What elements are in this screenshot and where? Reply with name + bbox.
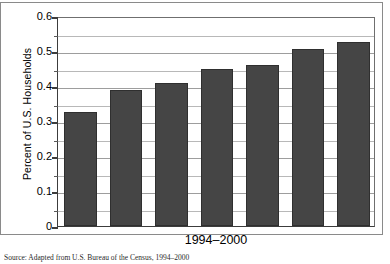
bar xyxy=(292,49,325,226)
bar xyxy=(64,112,97,226)
y-tick-major xyxy=(52,227,58,228)
y-axis-tick-labels: 00.10.20.30.40.50.6 xyxy=(18,16,52,227)
bar xyxy=(337,42,370,226)
y-axis-tick-label: 0.5 xyxy=(37,45,52,57)
y-axis-tick-label: 0.3 xyxy=(37,115,52,127)
y-axis-tick-label: 0.4 xyxy=(37,80,52,92)
source-caption: Source: Adapted from U.S. Bureau of the … xyxy=(4,253,388,264)
bar xyxy=(110,90,143,227)
y-axis-tick-label: 0.1 xyxy=(37,185,52,197)
y-axis-tick-label: 0.2 xyxy=(37,150,52,162)
y-axis-tick-label: 0.6 xyxy=(37,10,52,22)
plot-area xyxy=(57,17,375,227)
bars-layer xyxy=(58,18,374,226)
bar xyxy=(201,69,234,227)
y-axis-tick-label: 0 xyxy=(46,220,52,232)
chart-figure: Percent of U.S. Households 00.10.20.30.4… xyxy=(0,0,390,264)
x-axis-title: 1994–2000 xyxy=(57,233,375,247)
bar xyxy=(246,65,279,226)
bar xyxy=(155,83,188,227)
